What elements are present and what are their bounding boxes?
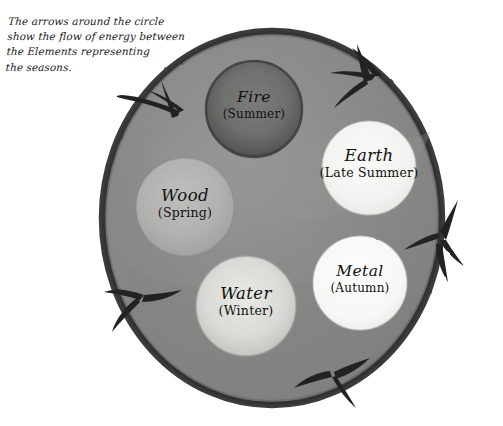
diagram-artwork (0, 0, 503, 426)
element-disc-metal (313, 236, 407, 330)
element-disc-fire (206, 61, 302, 157)
element-disc-wood (136, 158, 234, 256)
element-disc-water (196, 256, 296, 356)
element-disc-earth (322, 121, 416, 215)
five-elements-figure: The arrows around the circle show the fl… (0, 0, 503, 426)
